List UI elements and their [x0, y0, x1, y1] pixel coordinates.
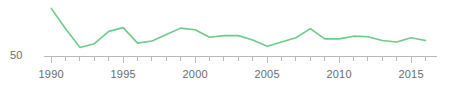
x-axis-label-2005: 2005	[254, 68, 279, 80]
x-axis-label-1995: 1995	[111, 68, 136, 80]
line-chart-container: 50 199019952000200520102015	[0, 0, 453, 88]
x-axis-label-2015: 2015	[398, 68, 423, 80]
x-axis-label-2000: 2000	[183, 68, 208, 80]
y-axis-tick-label-50: 50	[10, 49, 23, 61]
chart-plot-area	[0, 0, 453, 88]
x-axis-label-1990: 1990	[39, 68, 64, 80]
data-series-line	[51, 8, 425, 47]
x-axis-tick-marks	[51, 57, 425, 63]
x-axis-label-2010: 2010	[326, 68, 351, 80]
